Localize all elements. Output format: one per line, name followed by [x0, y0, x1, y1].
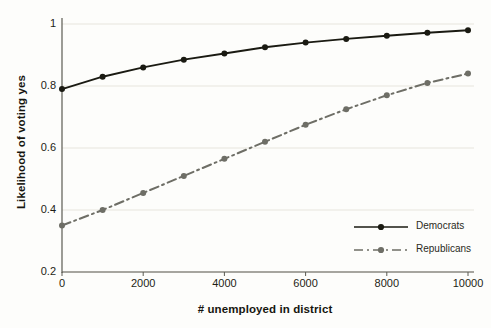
x-tick-label: 0 [32, 277, 92, 289]
legend-item-republicans[interactable]: Republicans [352, 241, 484, 255]
x-tick-label: 8000 [357, 277, 417, 289]
legend-label-democrats: Democrats [410, 220, 464, 231]
data-point-republicans [465, 71, 471, 77]
data-point-republicans [221, 156, 227, 162]
y-tick-label: 0.4 [22, 203, 56, 215]
data-point-democrats [100, 74, 106, 80]
x-tick-label: 6000 [276, 277, 336, 289]
y-tick-label: 0.8 [22, 79, 56, 91]
data-point-democrats [424, 30, 430, 36]
data-point-democrats [343, 36, 349, 42]
data-point-democrats [181, 57, 187, 63]
y-tick-label: 0.6 [22, 141, 56, 153]
data-point-republicans [343, 106, 349, 112]
x-tick-label: 2000 [113, 277, 173, 289]
data-point-republicans [59, 223, 65, 229]
x-axis-title: # unemployed in district [62, 303, 468, 315]
chart-legend: Democrats Republicans [352, 218, 484, 264]
data-point-republicans [100, 207, 106, 213]
data-point-republicans [384, 92, 390, 98]
y-tick-label: 1 [22, 17, 56, 29]
series-line-democrats [62, 30, 468, 89]
series-line-republicans [62, 74, 468, 226]
data-point-democrats [221, 50, 227, 56]
legend-item-democrats[interactable]: Democrats [352, 218, 484, 232]
data-point-republicans [303, 122, 309, 128]
data-point-republicans [424, 80, 430, 86]
chart-figure: Likelihood of voting yes 0.20.40.60.81 0… [0, 0, 491, 328]
data-point-republicans [140, 190, 146, 196]
legend-swatch-republicans [352, 242, 410, 254]
x-tick-label: 4000 [194, 277, 254, 289]
x-tick-label: 10000 [438, 277, 491, 289]
legend-label-republicans: Republicans [410, 243, 471, 254]
data-point-republicans [181, 173, 187, 179]
y-tick-label: 0.2 [22, 265, 56, 277]
legend-swatch-democrats [352, 219, 410, 231]
data-point-democrats [465, 27, 471, 33]
data-point-democrats [140, 64, 146, 70]
data-point-democrats [262, 44, 268, 50]
data-point-democrats [59, 86, 65, 92]
data-point-democrats [303, 40, 309, 46]
data-point-republicans [262, 139, 268, 145]
data-point-democrats [384, 33, 390, 39]
